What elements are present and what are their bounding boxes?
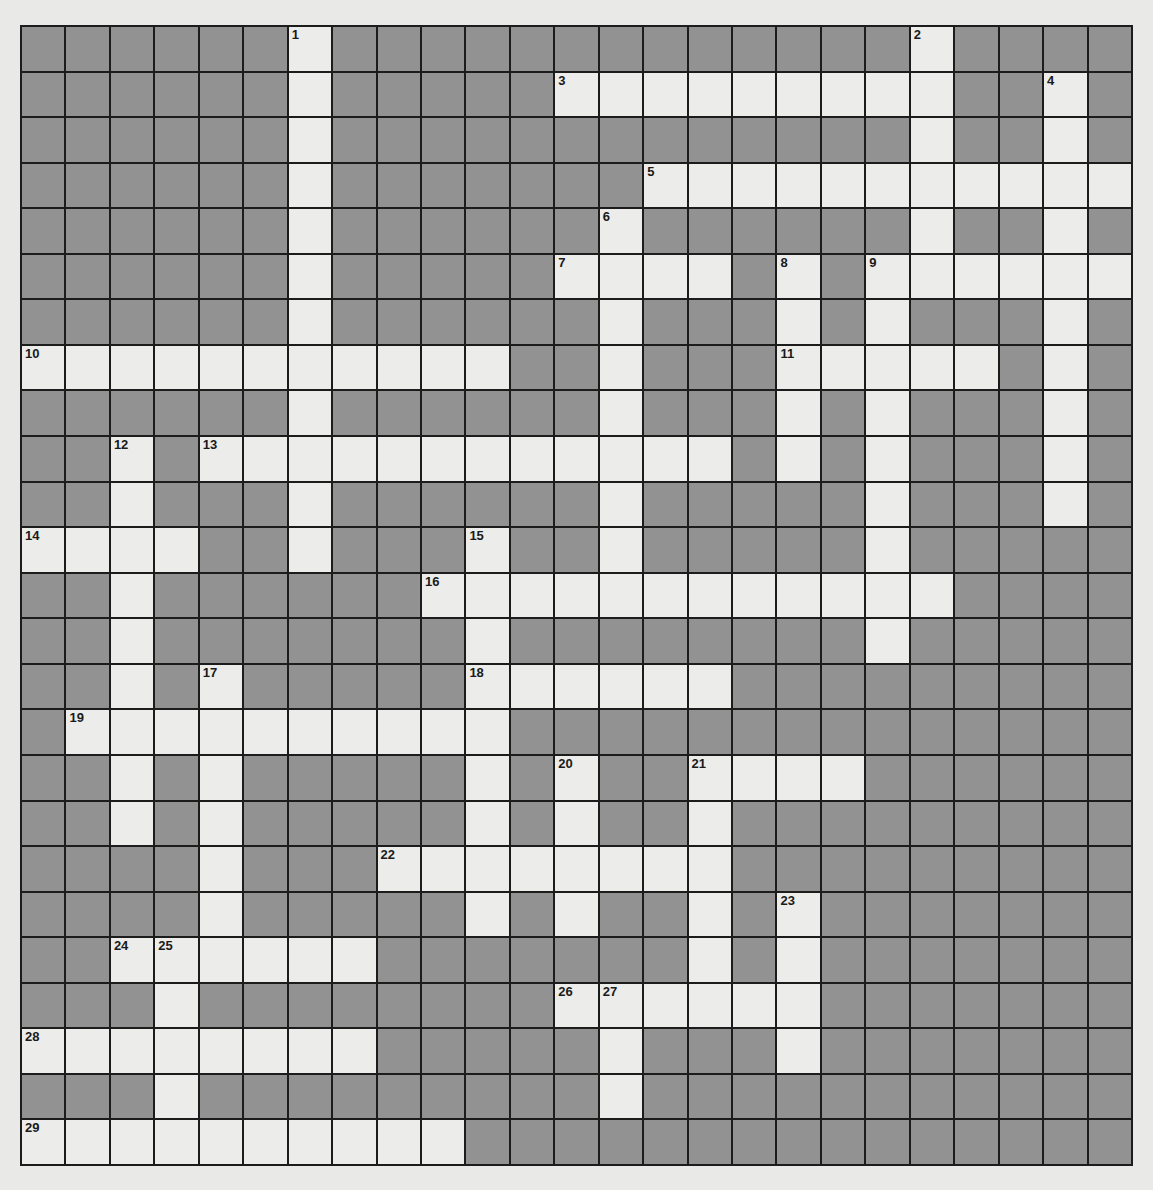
crossword-cell-open[interactable] <box>155 1029 197 1073</box>
crossword-cell-open[interactable] <box>689 893 731 937</box>
crossword-cell-open[interactable] <box>777 984 819 1028</box>
crossword-cell-open[interactable] <box>600 346 642 390</box>
crossword-cell-open[interactable]: 25 <box>155 938 197 982</box>
crossword-cell-open[interactable] <box>1044 209 1086 253</box>
crossword-cell-open[interactable] <box>777 164 819 208</box>
crossword-cell-open[interactable] <box>689 164 731 208</box>
crossword-cell-open[interactable] <box>733 164 775 208</box>
crossword-cell-open[interactable] <box>911 73 953 117</box>
crossword-cell-open[interactable] <box>1044 346 1086 390</box>
crossword-cell-open[interactable] <box>600 391 642 435</box>
crossword-cell-open[interactable] <box>822 574 864 618</box>
crossword-cell-open[interactable] <box>600 300 642 344</box>
crossword-cell-open[interactable] <box>1044 437 1086 481</box>
crossword-cell-open[interactable] <box>644 665 686 709</box>
crossword-cell-open[interactable] <box>911 346 953 390</box>
crossword-cell-open[interactable] <box>689 437 731 481</box>
crossword-cell-open[interactable] <box>511 437 553 481</box>
crossword-cell-open[interactable] <box>644 255 686 299</box>
crossword-cell-open[interactable] <box>644 437 686 481</box>
crossword-cell-open[interactable] <box>333 346 375 390</box>
crossword-cell-open[interactable] <box>466 756 508 800</box>
crossword-cell-open[interactable] <box>378 710 420 754</box>
crossword-cell-open[interactable] <box>111 665 153 709</box>
crossword-cell-open[interactable] <box>111 710 153 754</box>
crossword-cell-open[interactable] <box>1044 391 1086 435</box>
crossword-cell-open[interactable] <box>555 893 597 937</box>
crossword-cell-open[interactable] <box>600 574 642 618</box>
crossword-cell-open[interactable] <box>378 437 420 481</box>
crossword-cell-open[interactable] <box>777 391 819 435</box>
crossword-cell-open[interactable] <box>511 665 553 709</box>
crossword-cell-open[interactable] <box>777 437 819 481</box>
crossword-cell-open[interactable] <box>466 437 508 481</box>
crossword-cell-open[interactable] <box>289 118 331 162</box>
crossword-cell-open[interactable] <box>466 802 508 846</box>
crossword-cell-open[interactable] <box>244 1120 286 1164</box>
crossword-cell-open[interactable] <box>600 255 642 299</box>
crossword-cell-open[interactable]: 13 <box>200 437 242 481</box>
crossword-cell-open[interactable] <box>289 73 331 117</box>
crossword-cell-open[interactable] <box>155 1075 197 1119</box>
crossword-cell-open[interactable] <box>289 255 331 299</box>
crossword-cell-open[interactable] <box>200 802 242 846</box>
crossword-cell-open[interactable] <box>289 1120 331 1164</box>
crossword-cell-open[interactable] <box>600 1075 642 1119</box>
crossword-cell-open[interactable] <box>422 346 464 390</box>
crossword-cell-open[interactable] <box>1089 164 1131 208</box>
crossword-cell-open[interactable] <box>777 574 819 618</box>
crossword-cell-open[interactable] <box>689 73 731 117</box>
crossword-cell-open[interactable] <box>155 528 197 572</box>
crossword-cell-open[interactable]: 23 <box>777 893 819 937</box>
crossword-cell-open[interactable]: 22 <box>378 847 420 891</box>
crossword-cell-open[interactable]: 10 <box>22 346 64 390</box>
crossword-cell-open[interactable]: 29 <box>22 1120 64 1164</box>
crossword-cell-open[interactable]: 2 <box>911 27 953 71</box>
crossword-cell-open[interactable] <box>644 984 686 1028</box>
crossword-cell-open[interactable]: 15 <box>466 528 508 572</box>
crossword-cell-open[interactable] <box>689 802 731 846</box>
crossword-cell-open[interactable] <box>866 73 908 117</box>
crossword-cell-open[interactable] <box>289 391 331 435</box>
crossword-cell-open[interactable] <box>689 938 731 982</box>
crossword-cell-open[interactable] <box>111 1120 153 1164</box>
crossword-cell-open[interactable] <box>911 118 953 162</box>
crossword-cell-open[interactable] <box>289 437 331 481</box>
crossword-cell-open[interactable]: 20 <box>555 756 597 800</box>
crossword-cell-open[interactable]: 17 <box>200 665 242 709</box>
crossword-cell-open[interactable] <box>1044 255 1086 299</box>
crossword-cell-open[interactable] <box>155 984 197 1028</box>
crossword-cell-open[interactable] <box>866 391 908 435</box>
crossword-cell-open[interactable] <box>777 73 819 117</box>
crossword-cell-open[interactable] <box>466 574 508 618</box>
crossword-cell-open[interactable] <box>289 164 331 208</box>
crossword-cell-open[interactable] <box>333 710 375 754</box>
crossword-cell-open[interactable] <box>244 437 286 481</box>
crossword-cell-open[interactable]: 6 <box>600 209 642 253</box>
crossword-cell-open[interactable] <box>689 984 731 1028</box>
crossword-cell-open[interactable] <box>111 1029 153 1073</box>
crossword-cell-open[interactable] <box>111 619 153 663</box>
crossword-cell-open[interactable] <box>600 1029 642 1073</box>
crossword-cell-open[interactable] <box>289 528 331 572</box>
crossword-cell-open[interactable] <box>466 847 508 891</box>
crossword-cell-open[interactable] <box>333 938 375 982</box>
crossword-cell-open[interactable]: 26 <box>555 984 597 1028</box>
crossword-cell-open[interactable] <box>644 847 686 891</box>
crossword-cell-open[interactable] <box>200 847 242 891</box>
crossword-cell-open[interactable] <box>600 847 642 891</box>
crossword-cell-open[interactable] <box>689 574 731 618</box>
crossword-cell-open[interactable] <box>511 574 553 618</box>
crossword-cell-open[interactable] <box>422 847 464 891</box>
crossword-cell-open[interactable] <box>911 164 953 208</box>
crossword-cell-open[interactable] <box>689 665 731 709</box>
crossword-cell-open[interactable] <box>289 938 331 982</box>
crossword-cell-open[interactable]: 12 <box>111 437 153 481</box>
crossword-cell-open[interactable] <box>378 1120 420 1164</box>
crossword-cell-open[interactable]: 4 <box>1044 73 1086 117</box>
crossword-cell-open[interactable] <box>911 209 953 253</box>
crossword-cell-open[interactable] <box>422 437 464 481</box>
crossword-cell-open[interactable] <box>555 665 597 709</box>
crossword-cell-open[interactable] <box>289 710 331 754</box>
crossword-cell-open[interactable] <box>1044 164 1086 208</box>
